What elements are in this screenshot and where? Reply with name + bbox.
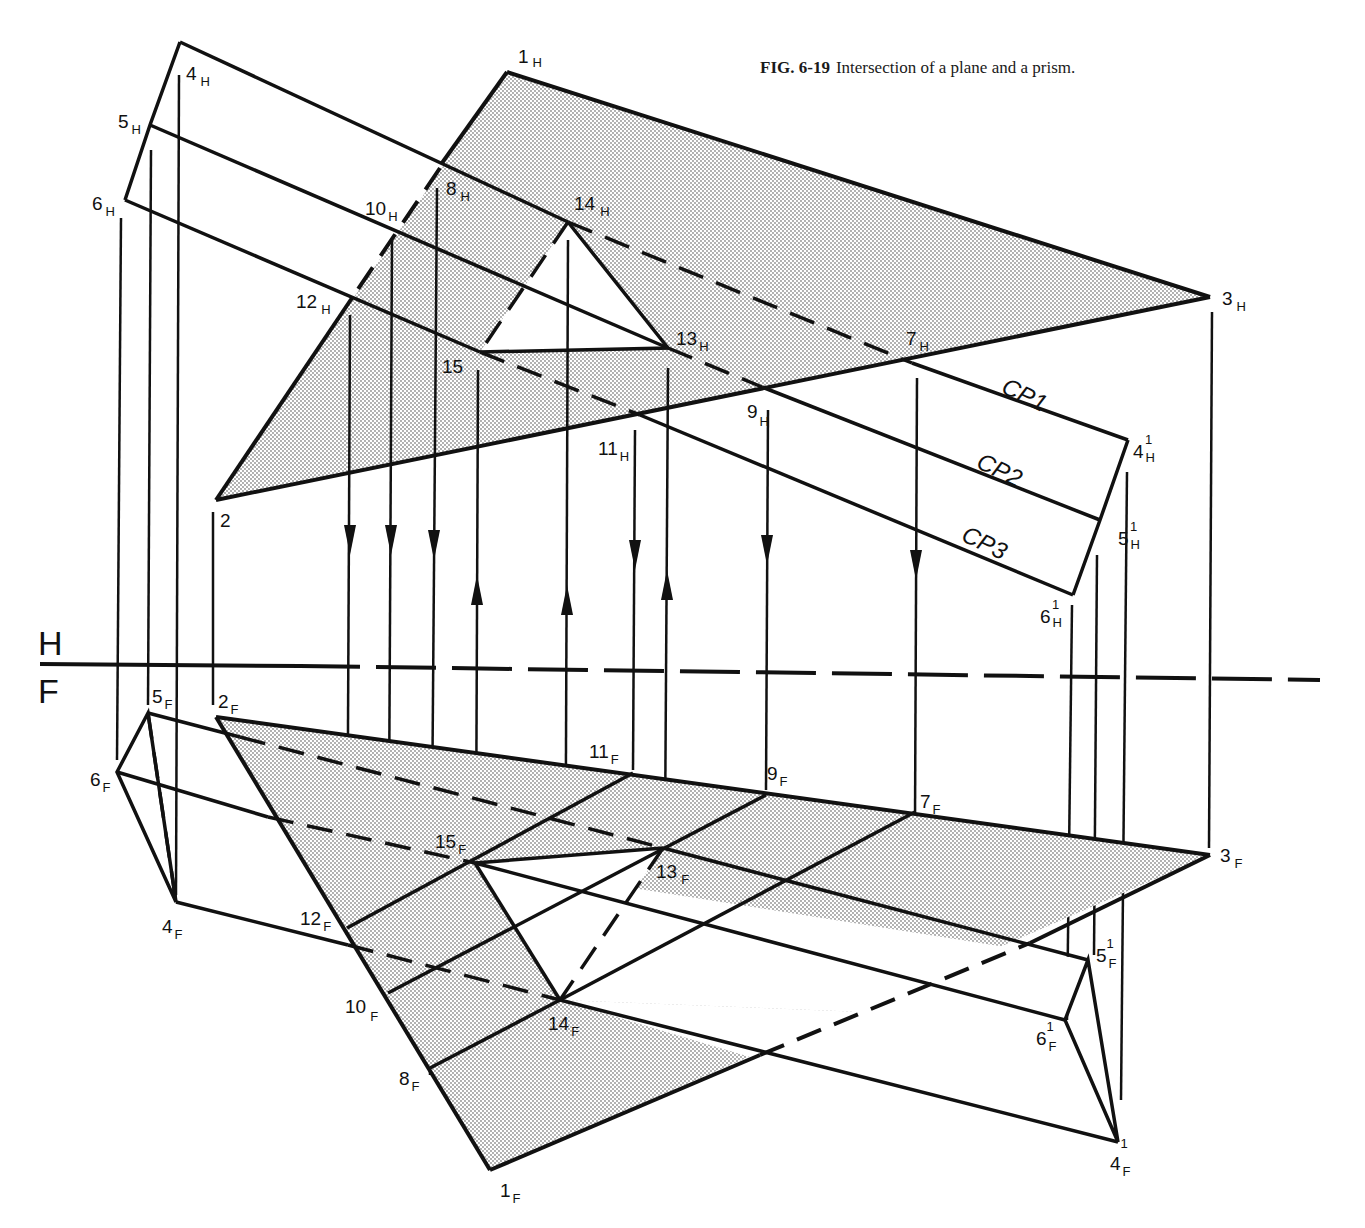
reference-line-solid (40, 664, 300, 666)
prism-end-4-5-6-prime-top (1073, 440, 1128, 595)
projector-5 (148, 150, 151, 705)
projector-6 (117, 218, 121, 760)
prism-edge-5-cont-top (762, 387, 1100, 520)
label-4f: 4F (162, 916, 183, 942)
label-2f: 2F (218, 691, 239, 717)
prism-edge-6-front-a (117, 772, 268, 817)
label-9h: 9H (747, 401, 769, 429)
label-2: 2 (220, 510, 231, 531)
arrow-down-8-icon (428, 530, 440, 560)
arrow-up-14-icon (561, 585, 573, 615)
projector-4 (176, 75, 179, 895)
projector-3 (1209, 312, 1212, 848)
label-11h: 11H (598, 438, 629, 464)
label-3f: 3F (1220, 845, 1243, 871)
label-4h: 4H (186, 63, 210, 89)
label-8f: 8F (399, 1068, 420, 1094)
projector-11 (633, 430, 635, 770)
label-3h: 3H (1222, 288, 1246, 314)
label-5f-prime: 5F1 (1096, 936, 1117, 971)
arrow-up-15-icon (471, 575, 483, 605)
projector-13 (665, 368, 668, 835)
label-5f: 5F (152, 686, 173, 712)
label-10f: 10F (345, 996, 378, 1024)
label-6h: 6H (92, 193, 115, 219)
prism-end-4-5-6-top (125, 42, 180, 200)
label-1f: 1F (500, 1180, 521, 1206)
arrow-down-9-icon (761, 535, 773, 565)
descriptive-geometry-figure: H F (0, 0, 1365, 1228)
label-9f: 9F (767, 763, 788, 789)
arrow-down-7-icon (910, 550, 922, 580)
reference-line-dashed (300, 666, 1320, 680)
label-h: H (38, 624, 63, 662)
label-5h-prime: 5H1 (1118, 519, 1140, 552)
label-6h-prime: 6H1 (1040, 597, 1062, 630)
prism-edge-6-cont-top (640, 415, 1073, 595)
projector-4-prime (1121, 472, 1127, 1100)
arrow-down-12-icon (344, 525, 356, 555)
cp2-label: CP2 (973, 447, 1027, 492)
label-7f: 7F (920, 791, 941, 817)
arrow-up-13-icon (661, 570, 673, 600)
label-6f: 6F (90, 769, 111, 795)
label-4h-prime: 4H1 (1133, 432, 1155, 465)
front-view (117, 713, 1210, 1170)
arrow-down-10-icon (385, 525, 397, 555)
arrow-down-11-icon (629, 540, 641, 570)
label-f: F (38, 672, 59, 710)
prism-end-front (117, 713, 176, 902)
label-1h: 1H (518, 46, 542, 70)
projector-7 (915, 378, 917, 820)
label-11f: 11F (589, 741, 619, 767)
label-5h: 5H (118, 111, 141, 137)
label-12f: 12F (300, 908, 331, 934)
label-15: 15 (442, 356, 463, 377)
reference-line-hf: H F (38, 624, 1320, 710)
